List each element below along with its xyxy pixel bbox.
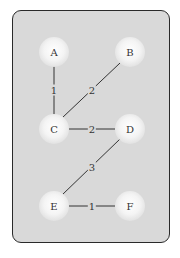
edge-weight-d-e: 3 <box>88 162 96 173</box>
edge-weight-a-c: 1 <box>50 85 58 96</box>
node-b: B <box>115 37 145 67</box>
node-a: A <box>39 37 69 67</box>
node-f: F <box>115 191 145 221</box>
node-d: D <box>115 114 145 144</box>
edge-weight-e-f: 1 <box>88 201 96 212</box>
node-c: C <box>39 114 69 144</box>
edge-weight-c-d: 2 <box>88 124 96 135</box>
node-e: E <box>39 191 69 221</box>
edge-weight-c-b: 2 <box>88 85 96 96</box>
